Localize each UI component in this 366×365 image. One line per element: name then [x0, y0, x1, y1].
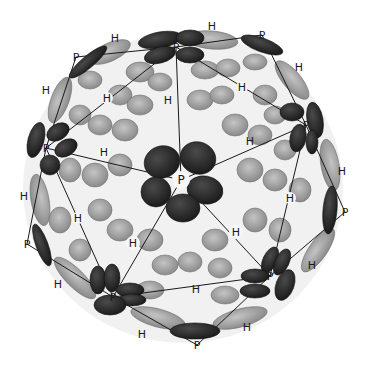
hexamer-label: H	[243, 322, 251, 333]
hexamer-label: H	[246, 136, 254, 147]
hexamer-label: H	[100, 147, 108, 158]
hexamer-label: H	[286, 193, 294, 204]
hexamer-label: H	[232, 227, 240, 238]
pentamer-label: P	[43, 143, 50, 154]
pentamer-label: P	[303, 120, 310, 131]
pentamer-label: P	[342, 207, 349, 218]
hexamer-label: H	[192, 284, 200, 295]
hexamer-label: H	[164, 95, 172, 106]
pentamer-label: P	[73, 52, 80, 63]
hexamer-label: H	[54, 279, 62, 290]
hexamer-label: H	[42, 85, 50, 96]
hexamer-label: H	[338, 166, 346, 177]
hexamer-label: H	[111, 33, 119, 44]
pentamer-label: P	[24, 239, 31, 250]
hexamer-label: H	[295, 62, 303, 73]
hexamer-label: H	[20, 191, 28, 202]
hexamer-label: H	[138, 329, 146, 340]
pentamer-label: P	[267, 271, 274, 282]
hexamer-label: H	[103, 93, 111, 104]
pentamer-label: P	[194, 340, 201, 351]
hexamer-label: H	[129, 238, 137, 249]
hexamer-label: H	[208, 21, 216, 32]
pentamer-label: P	[177, 174, 184, 186]
pentamer-label: P	[259, 30, 266, 41]
pentamer-label: P	[110, 292, 117, 303]
hexamer-label: H	[74, 213, 82, 224]
pentamer-label: P	[173, 42, 180, 53]
hexamer-label: H	[238, 82, 246, 93]
hexamer-label: H	[308, 260, 316, 271]
